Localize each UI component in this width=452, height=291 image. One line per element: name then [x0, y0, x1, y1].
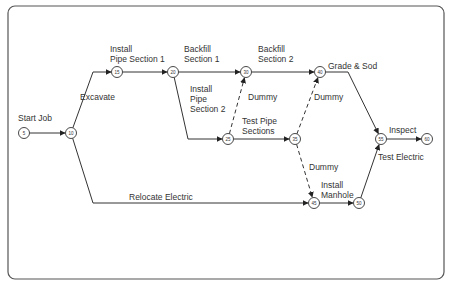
activity-label-45-50: InstallManhole: [321, 180, 354, 200]
svg-text:50: 50: [356, 201, 362, 206]
activity-arrow-40-55: [326, 72, 379, 134]
activity-label-10-45: Relocate Electric: [129, 192, 194, 202]
activity-label-15-20: InstallPipe Section 1: [110, 44, 165, 64]
event-node-10: 10: [66, 128, 77, 139]
svg-text:45: 45: [311, 201, 317, 206]
event-node-20: 20: [168, 67, 179, 78]
activity-label-5-10: Start Job: [18, 113, 52, 123]
event-node-60: 60: [422, 134, 433, 145]
activity-label-20-25: InstallPipeSection 2: [190, 84, 226, 114]
event-node-25: 25: [223, 134, 234, 145]
event-node-50: 50: [354, 198, 365, 209]
activity-label-40-55: Grade & Sod: [328, 61, 377, 71]
activity-label-30-40: BackfillSection 2: [258, 44, 294, 64]
svg-text:35: 35: [292, 137, 298, 142]
svg-text:25: 25: [225, 137, 231, 142]
activity-label-35-40: Dummy: [314, 92, 344, 102]
activity-label-50-55: Test Electric: [378, 152, 425, 162]
activity-label-35-45: Dummy: [309, 162, 339, 172]
event-node-55: 55: [376, 134, 387, 145]
activity-label-55-60: Inspect: [389, 125, 417, 135]
event-node-5: 5: [19, 128, 30, 139]
activity-label-25-35: Test PipeSections: [242, 116, 277, 136]
diagram-canvas: Start JobExcavateInstallPipe Section 1Ba…: [0, 0, 452, 291]
event-node-30: 30: [241, 67, 252, 78]
activity-arrow-50-55: [361, 145, 379, 198]
event-node-15: 15: [112, 67, 123, 78]
svg-text:10: 10: [68, 131, 74, 136]
svg-text:60: 60: [424, 137, 430, 142]
event-node-40: 40: [315, 67, 326, 78]
event-nodes: 51015202530354045505560: [19, 67, 433, 209]
activity-labels: Start JobExcavateInstallPipe Section 1Ba…: [18, 44, 425, 202]
svg-text:30: 30: [243, 70, 249, 75]
activity-label-10-15: Excavate: [80, 92, 115, 102]
activity-label-25-30: Dummy: [248, 92, 278, 102]
activity-arrow-35-40: [297, 78, 318, 134]
event-node-35: 35: [290, 134, 301, 145]
event-node-45: 45: [309, 198, 320, 209]
svg-text:20: 20: [170, 70, 176, 75]
network-diagram: Start JobExcavateInstallPipe Section 1Ba…: [0, 0, 452, 291]
activity-label-20-30: BackfillSection 1: [184, 44, 220, 64]
svg-text:55: 55: [378, 137, 384, 142]
svg-text:15: 15: [114, 70, 120, 75]
svg-text:40: 40: [317, 70, 323, 75]
